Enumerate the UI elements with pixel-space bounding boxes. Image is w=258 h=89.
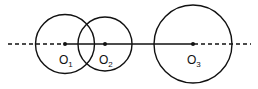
circles-diagram: O1 O2 O3 — [0, 0, 258, 89]
label-o1: O1 — [59, 53, 73, 69]
center-point-o1 — [63, 42, 67, 46]
label-o2: O2 — [99, 53, 113, 69]
center-point-o3 — [191, 42, 195, 46]
label-o3: O3 — [187, 53, 201, 69]
center-point-o2 — [103, 42, 107, 46]
